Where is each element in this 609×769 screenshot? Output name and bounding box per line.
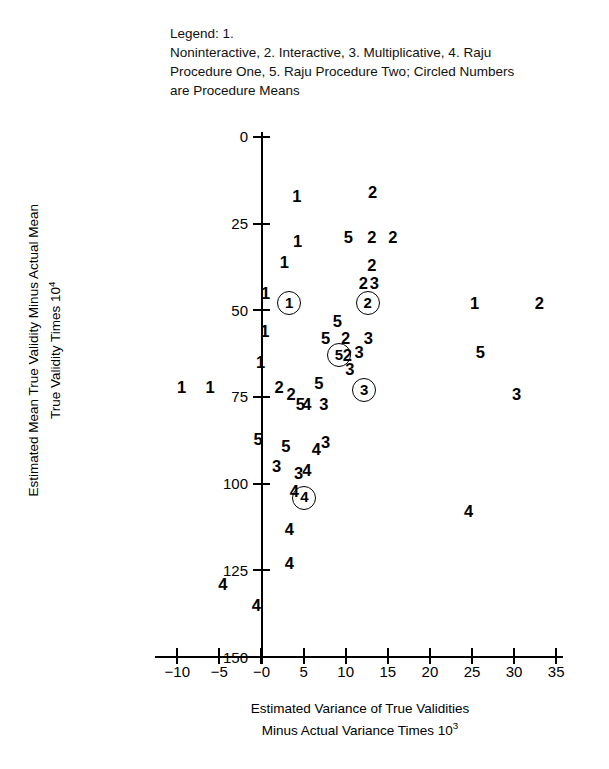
x-tick-label-25: 25 xyxy=(449,664,495,680)
data-point-3-22: 3 xyxy=(355,344,364,361)
y-tick-125 xyxy=(253,223,270,225)
data-point-2-1: 2 xyxy=(368,184,377,201)
y-tick-label-75: 75 xyxy=(196,389,248,404)
x-tick-label--5: −5 xyxy=(196,664,242,680)
data-point-2-5: 2 xyxy=(388,229,397,246)
x-tick-label-0: −0 xyxy=(239,664,285,680)
x-tick-label--10: −10 xyxy=(154,664,200,680)
data-point-4-48: 4 xyxy=(218,576,227,593)
data-point-1-16: 1 xyxy=(260,323,269,340)
y-tick-label-100: 50 xyxy=(196,303,248,318)
y-axis-title-exponent: 4 xyxy=(46,282,57,287)
y-tick-label-text: 50 xyxy=(204,303,248,318)
x-tick-15 xyxy=(387,648,389,664)
data-point-2-14: 2 xyxy=(535,295,544,312)
data-point-1-13: 1 xyxy=(470,295,479,312)
data-point-4-47: 4 xyxy=(285,555,294,572)
x-axis-title-line1: Estimated Variance of True Validities xyxy=(150,700,570,717)
data-point-4-46: 4 xyxy=(285,520,294,537)
data-point-5-26: 5 xyxy=(314,375,323,392)
data-point-5-23: 5 xyxy=(476,344,485,361)
y-axis-title-line1: Estimated Mean True Validity Minus Actua… xyxy=(25,135,43,565)
x-tick-5 xyxy=(303,648,305,664)
data-point-2-30: 2 xyxy=(286,385,295,402)
data-point-mean-3-31: 3 xyxy=(352,378,376,402)
x-axis-title: Estimated Variance of True Validities Mi… xyxy=(150,700,570,739)
data-point-2-7: 2 xyxy=(367,257,376,274)
plot-area: 1501251007550250−10−5−05101520253035 121… xyxy=(0,0,609,769)
data-point-1-27: 1 xyxy=(177,378,186,395)
data-point-5-3: 5 xyxy=(344,229,353,246)
data-point-3-35: 3 xyxy=(319,396,328,413)
data-point-3-32: 3 xyxy=(512,385,521,402)
data-point-3-39: 3 xyxy=(321,434,330,451)
x-tick-35 xyxy=(555,648,557,664)
y-tick-label-text: 100 xyxy=(204,476,248,491)
data-point-3-40: 3 xyxy=(272,458,281,475)
x-tick-label-30: 30 xyxy=(491,664,537,680)
data-point-1-6: 1 xyxy=(280,254,289,271)
x-tick-10 xyxy=(345,648,347,664)
x-tick-label-20: 20 xyxy=(407,664,453,680)
scatter-plot-figure: Legend: 1. Noninteractive, 2. Interactiv… xyxy=(0,0,609,769)
data-point-1-10: 1 xyxy=(261,285,270,302)
data-point-4-38: 4 xyxy=(312,441,321,458)
data-point-5-17: 5 xyxy=(321,330,330,347)
data-point-1-0: 1 xyxy=(292,188,301,205)
y-tick-label-50: 100 xyxy=(196,476,248,491)
x-tick-label-5: 5 xyxy=(281,664,327,680)
data-point-1-2: 1 xyxy=(293,233,302,250)
data-point-5-36: 5 xyxy=(254,430,263,447)
x-tick-25 xyxy=(471,648,473,664)
data-point-mean-2-12: 2 xyxy=(356,291,380,315)
data-point-mean-1-11: 1 xyxy=(277,291,301,315)
data-point-4-34: 4 xyxy=(302,396,311,413)
data-point-4-45: 4 xyxy=(464,503,473,520)
x-tick-label-10: 10 xyxy=(323,664,369,680)
data-point-3-9: 3 xyxy=(370,274,379,291)
data-point-2-8: 2 xyxy=(359,274,368,291)
y-tick-label-125: 25 xyxy=(196,216,248,231)
y-tick-50 xyxy=(253,483,270,485)
data-point-2-4: 2 xyxy=(367,229,376,246)
y-tick-25 xyxy=(253,569,270,571)
data-point-2-29: 2 xyxy=(275,378,284,395)
y-tick-label-150: 0 xyxy=(196,129,248,144)
data-point-1-28: 1 xyxy=(206,378,215,395)
y-tick-150 xyxy=(253,136,270,138)
x-axis-title-line2: Minus Actual Variance Times 103 xyxy=(150,717,570,739)
x-tick-30 xyxy=(513,648,515,664)
y-tick-75 xyxy=(253,396,270,398)
y-tick-label-text: 25 xyxy=(204,216,248,231)
x-tick-label-15: 15 xyxy=(365,664,411,680)
data-point-mean-4-44: 4 xyxy=(292,486,316,510)
data-point-3-25: 3 xyxy=(345,361,354,378)
data-point-5-15: 5 xyxy=(333,312,342,329)
x-tick-20 xyxy=(429,648,431,664)
y-axis-title-line2: True Validity Times 104 xyxy=(43,135,66,565)
x-tick--5 xyxy=(218,648,220,664)
x-tick-0 xyxy=(260,648,262,664)
data-point-4-49: 4 xyxy=(252,597,261,614)
y-axis-title: Estimated Mean True Validity Minus Actua… xyxy=(25,135,66,565)
x-tick-label-35: 35 xyxy=(533,664,579,680)
data-point-1-24: 1 xyxy=(256,354,265,371)
data-point-4-42: 4 xyxy=(302,462,311,479)
data-point-3-19: 3 xyxy=(364,330,373,347)
y-tick-100 xyxy=(253,309,270,311)
y-tick-label-text: 0 xyxy=(204,129,248,144)
x-tick--10 xyxy=(176,648,178,664)
data-point-5-37: 5 xyxy=(281,437,290,454)
x-axis-title-exponent: 3 xyxy=(453,720,458,731)
